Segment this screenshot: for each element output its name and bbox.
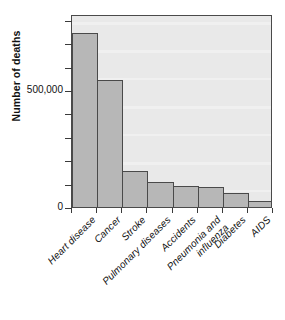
x-axis-tick — [172, 208, 173, 213]
x-axis-tick — [146, 208, 147, 213]
x-axis-tick — [121, 208, 122, 213]
y-axis-tick — [65, 21, 72, 22]
x-axis-tick — [247, 208, 248, 213]
x-axis-tick — [96, 208, 97, 213]
y-axis-tick — [65, 114, 72, 115]
x-axis-tick — [272, 208, 273, 213]
x-axis-tick — [197, 208, 198, 213]
y-axis-tick — [65, 91, 72, 92]
deaths-bar-chart-figure: Number of deaths 0500,000 Heart diseaseC… — [0, 0, 285, 320]
y-axis-tick — [65, 44, 72, 45]
y-axis-tick — [65, 68, 72, 69]
y-axis-tick — [65, 138, 72, 139]
y-axis-tick — [65, 161, 72, 162]
x-axis-tick-label-group: Heart diseaseCancerStrokePulmonary disea… — [0, 0, 285, 320]
x-axis-tick-label-line: AIDS — [249, 214, 274, 239]
y-axis-tick — [65, 185, 72, 186]
x-axis-tick — [222, 208, 223, 213]
x-axis-tick — [71, 208, 72, 213]
